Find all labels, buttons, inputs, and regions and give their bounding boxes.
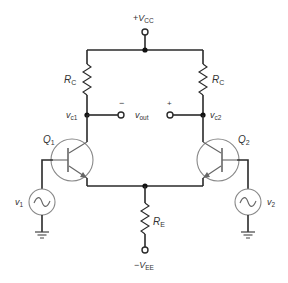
vc1-label: vc1 (66, 110, 78, 121)
rc-right-resistor (199, 64, 207, 95)
v1-ac-source-icon (29, 160, 55, 232)
q1-label: Q1 (43, 134, 55, 146)
rc-left-label: RC (64, 74, 76, 86)
v2-ac-source-icon (235, 160, 261, 232)
vcc-terminal (142, 29, 148, 35)
vout-label: vout (135, 110, 149, 121)
re-resistor (141, 203, 149, 234)
out-minus-sign: − (119, 98, 124, 108)
q2-transistor-icon (197, 115, 239, 186)
v2-ground-icon (241, 232, 255, 238)
vcc-label: +VCC (133, 13, 154, 24)
vc2-label: vc2 (210, 110, 222, 121)
circuit-diagram: +VCC RC RC vc1 − vout vc2 + Q1 (0, 0, 288, 283)
out-minus-terminal (118, 112, 124, 118)
vee-label: −VEE (134, 260, 155, 271)
vcc-node-dot (142, 47, 147, 52)
out-plus-sign: + (167, 99, 172, 108)
re-label: RE (153, 216, 165, 228)
rc-left-resistor (83, 64, 91, 95)
out-plus-terminal (167, 112, 173, 118)
rc-right-label: RC (212, 74, 224, 86)
v1-label: v1 (15, 197, 24, 208)
vee-terminal (142, 247, 148, 253)
v1-ground-icon (35, 232, 49, 238)
v2-label: v2 (267, 197, 276, 208)
q1-transistor-icon (51, 115, 93, 186)
q2-label: Q2 (238, 134, 250, 146)
